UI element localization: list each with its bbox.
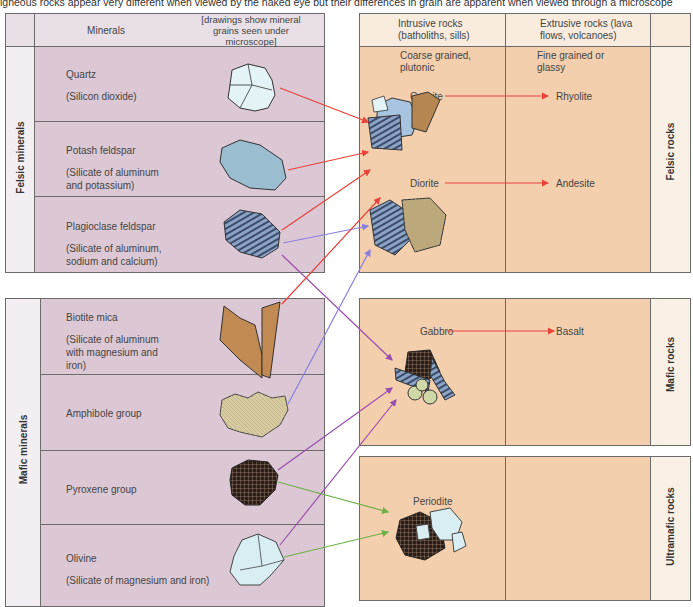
potash-feldspar-grain-icon (220, 140, 286, 190)
granite-rock-icon (368, 92, 440, 150)
diorite-rock-icon (370, 198, 446, 255)
biotite-grain-icon (220, 302, 280, 378)
mineral-to-rock-arrows (278, 88, 396, 557)
pyroxene-grain-icon (230, 460, 278, 505)
amphibole-grain-icon (220, 392, 288, 437)
plagioclase-grain-icon (224, 210, 280, 258)
periodite-rock-icon (396, 508, 466, 560)
gabbro-rock-icon (395, 350, 455, 404)
quartz-grain-icon (228, 64, 275, 111)
intrusive-to-extrusive-arrows (445, 96, 554, 331)
diagram-overlay (0, 0, 693, 607)
olivine-grain-icon (230, 534, 284, 585)
